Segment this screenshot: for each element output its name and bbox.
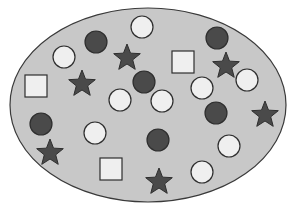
white-circle (218, 135, 240, 157)
white-circle (191, 77, 213, 99)
square (100, 158, 122, 180)
white-circle (151, 90, 173, 112)
white-circle (84, 122, 106, 144)
shapes-diagram (0, 0, 292, 209)
white-circle (131, 16, 153, 38)
diagram-canvas (0, 0, 292, 209)
dark-circle (206, 27, 228, 49)
square (172, 51, 194, 73)
dark-circle (147, 129, 169, 151)
white-circle (236, 69, 258, 91)
white-circle (191, 161, 213, 183)
dark-circle (133, 71, 155, 93)
dark-circle (205, 102, 227, 124)
container-ellipse (10, 8, 286, 202)
square (25, 75, 47, 97)
dark-circle (30, 113, 52, 135)
white-circle (109, 89, 131, 111)
dark-circle (85, 31, 107, 53)
white-circle (53, 46, 75, 68)
